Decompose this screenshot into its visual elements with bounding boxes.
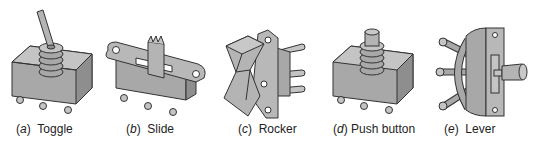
- push-button-switch-illustration: [325, 0, 430, 120]
- panel-lever: (e) Lever: [430, 0, 536, 152]
- panel-push-button: (d) Push button: [325, 0, 430, 152]
- caption-slide: (b) Slide: [126, 122, 174, 136]
- lever-switch-illustration: [430, 0, 536, 120]
- caption-rocker: (c) Rocker: [238, 122, 297, 136]
- panel-rocker: (c) Rocker: [210, 0, 320, 152]
- caption-toggle: (a) Toggle: [16, 122, 73, 136]
- toggle-switch-illustration: [0, 0, 100, 120]
- slide-switch-illustration: [100, 0, 210, 120]
- panel-toggle: (a) Toggle: [0, 0, 100, 152]
- panel-slide: (b) Slide: [100, 0, 210, 152]
- caption-lever: (e) Lever: [444, 122, 495, 136]
- rocker-switch-illustration: [210, 0, 320, 120]
- caption-push-button: (d) Push button: [333, 122, 415, 136]
